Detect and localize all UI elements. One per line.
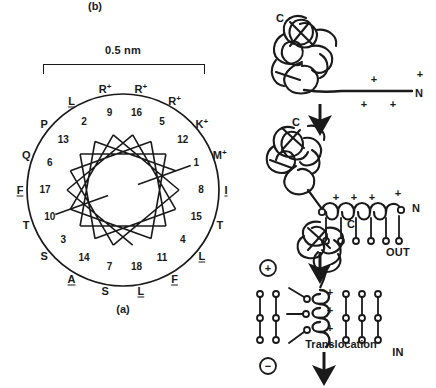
stage1-c-terminus-label: C — [276, 13, 284, 24]
wheel-position-number: 8 — [198, 185, 204, 195]
scale-bar-label: 0.5 nm — [0, 44, 246, 56]
wheel-residue-label: A — [68, 274, 76, 285]
positive-pole-sign: + — [265, 263, 271, 274]
wheel-residue-label: M+ — [213, 148, 227, 161]
stage1-positive-charge: + — [417, 69, 423, 80]
stage2-positive-charge: + — [351, 192, 357, 203]
wheel-position-number: 3 — [60, 235, 66, 245]
bilayer-lipids-right — [343, 291, 381, 343]
wheel-position-number: 4 — [180, 235, 186, 245]
translocation-diagram — [246, 0, 436, 388]
scale-bar — [43, 64, 205, 74]
stage2-positive-charge: + — [333, 192, 339, 203]
wheel-residue-label: T — [216, 220, 223, 231]
stage2-c-terminus-label: C — [292, 117, 300, 128]
stage2-lipid-heads — [319, 207, 404, 244]
bilayer-lipids-left — [257, 291, 279, 343]
wheel-position-number: 10 — [44, 212, 55, 222]
stage2-folded-protein — [267, 126, 325, 195]
wheel-sequence-path — [67, 135, 179, 245]
wheel-residue-label: S — [40, 251, 47, 262]
wheel-residue-label: S — [101, 286, 108, 297]
wheel-position-number: 7 — [107, 262, 113, 272]
wheel-position-number: 14 — [78, 253, 89, 263]
wheel-residue-label: T — [23, 220, 30, 231]
wheel-residue-label: I — [224, 185, 227, 196]
panel-b-translocation: CN++++CN++++COUTIN+−++++ — [246, 0, 436, 388]
wheel-residue-label: R+ — [168, 94, 181, 107]
wheel-position-number: 15 — [191, 212, 202, 222]
stage2-alpha-helix — [322, 203, 400, 220]
wheel-residue-label: R+ — [99, 82, 112, 95]
bilayer-lipids-tilted — [287, 288, 310, 343]
wheel-residue-label: K+ — [196, 117, 209, 130]
wheel-radial-tick — [138, 165, 191, 184]
stage3-c-terminus-label: C — [347, 219, 355, 230]
wheel-position-number: 12 — [177, 135, 188, 145]
wheel-radial-tick — [55, 196, 108, 215]
translocation-label: Translocation — [246, 338, 436, 350]
wheel-residue-label: L — [138, 286, 145, 297]
wheel-position-number: 1 — [194, 158, 200, 168]
panel-a-caption: (a) — [0, 303, 246, 315]
stage2-positive-charge: + — [395, 188, 401, 199]
wheel-residue-label: Q — [22, 149, 31, 160]
stage2-n-terminus-label: N — [412, 203, 420, 214]
wheel-residue-label: L — [199, 251, 206, 262]
wheel-position-number: 2 — [81, 117, 87, 127]
wheel-position-number: 18 — [131, 262, 142, 272]
wheel-residue-label: F — [17, 185, 24, 196]
wheel-position-number: 17 — [39, 185, 50, 195]
wheel-position-number: 5 — [159, 117, 165, 127]
wheel-residue-label: L — [68, 95, 75, 106]
wheel-position-number: 6 — [47, 158, 53, 168]
wheel-position-number: 11 — [157, 253, 168, 263]
wheel-connection-polygon — [55, 135, 190, 245]
stage2-linker — [308, 190, 322, 209]
stage1-n-terminus-label: N — [415, 88, 423, 99]
stage1-positive-charge: + — [390, 99, 396, 110]
out-label: OUT — [386, 247, 410, 258]
stage1-extended-chain — [304, 90, 412, 92]
wheel-position-number: 9 — [107, 108, 113, 118]
stage1-positive-charge: + — [361, 99, 367, 110]
stage1-positive-charge: + — [371, 74, 377, 85]
panel-a-helical-wheel: 0.5 nm 1M+2L3S4L5R+6Q7S8I9R+10T11F12K+13… — [0, 0, 246, 388]
stage1-unfolded-protein — [272, 16, 336, 94]
stage3-positive-charge: + — [327, 287, 333, 298]
stage2-positive-charge: + — [369, 192, 375, 203]
wheel-position-number: 16 — [131, 108, 142, 118]
wheel-outer-circle — [27, 94, 219, 286]
stage3-positive-charge: + — [327, 305, 333, 316]
wheel-residue-label: R+ — [135, 82, 148, 95]
helical-wheel: 1M+2L3S4L5R+6Q7S8I9R+10T11F12K+13P14A15T… — [13, 80, 233, 300]
wheel-residue-label: F — [171, 274, 178, 285]
negative-pole-sign: − — [265, 361, 271, 372]
stage3-positive-charge: + — [327, 323, 333, 334]
wheel-residue-label: P — [40, 118, 47, 129]
stage3-linker — [320, 272, 326, 288]
figure-root: 0.5 nm 1M+2L3S4L5R+6Q7S8I9R+10T11F12K+13… — [0, 0, 436, 388]
wheel-position-number: 13 — [58, 135, 69, 145]
